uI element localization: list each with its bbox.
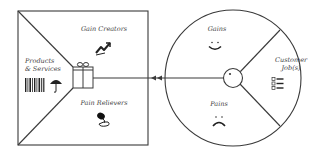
checklist-icon [272,78,284,90]
umbrella-icon [50,80,62,92]
customer-profile-divider-top [240,30,280,72]
gift-box-icon [73,63,93,89]
customer-jobs-label: Customer Job(s) [275,57,307,72]
trending-up-chart-icon [96,43,110,55]
value-proposition-canvas [0,0,316,155]
pain-relievers-label: Pain Relievers [81,100,128,108]
pains-label: Pains [210,101,228,109]
person-head-icon [224,69,243,88]
barcode-icon [25,78,44,92]
customer-profile-divider-bottom [240,84,280,126]
value-map-divider-bottom [18,88,73,145]
gains-label: Gains [208,26,227,34]
products-services-label: Products & Services [25,58,61,73]
sad-face-icon [213,116,225,126]
gain-creators-label: Gain Creators [81,26,127,34]
pill-medicine-icon [96,111,109,126]
person-eye [229,73,231,75]
smiley-face-icon [209,42,221,50]
